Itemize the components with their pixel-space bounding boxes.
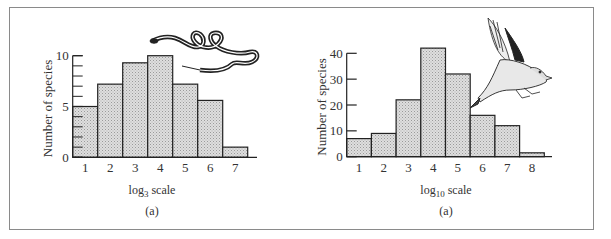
y-tick-label: 0 (336, 149, 343, 164)
x-tick-label: 3 (132, 160, 139, 175)
bar-4 (421, 48, 446, 157)
bar-4 (148, 56, 173, 158)
y-axis-title: Number of species (314, 58, 329, 155)
bar-3 (123, 63, 148, 157)
bar-1 (73, 107, 98, 158)
bird-illustration-icon (470, 18, 552, 108)
x-tick-label: 4 (157, 160, 164, 175)
bar-1 (347, 139, 372, 157)
x-tick-label: 4 (430, 160, 437, 175)
bar-7 (223, 147, 248, 157)
bar-2 (371, 133, 396, 156)
x-tick-label: 2 (107, 160, 114, 175)
x-tick-label: 3 (405, 160, 412, 175)
x-axis-title: log10 scale (420, 183, 471, 199)
x-tick-label: 2 (381, 160, 388, 175)
bar-6 (470, 115, 495, 156)
x-tick-label: 1 (82, 160, 89, 175)
y-tick-label: 0 (62, 150, 69, 165)
x-tick-label: 7 (232, 160, 239, 175)
bar-6 (198, 100, 223, 157)
y-tick-label: 20 (330, 98, 343, 113)
bar-5 (173, 84, 198, 157)
x-tick-label: 5 (455, 160, 462, 175)
y-tick-label: 10 (56, 48, 69, 63)
figure-canvas: 12345670510Number of specieslog3 scale(a… (0, 0, 611, 239)
y-tick-label: 5 (62, 99, 69, 114)
bar-7 (495, 126, 520, 157)
x-axis-title: log3 scale (129, 183, 176, 199)
y-axis-title: Number of species (40, 60, 55, 157)
panel-caption: (a) (439, 204, 452, 218)
y-tick-label: 10 (330, 123, 343, 138)
left-histogram: 12345670510Number of specieslog3 scale(a… (40, 48, 257, 218)
x-tick-label: 6 (207, 160, 214, 175)
y-tick-label: 30 (330, 72, 343, 87)
x-tick-label: 5 (182, 160, 189, 175)
bar-3 (396, 100, 421, 157)
x-tick-label: 8 (529, 160, 536, 175)
bar-5 (446, 74, 471, 157)
y-tick-label: 40 (330, 46, 343, 61)
x-tick-label: 6 (479, 160, 486, 175)
x-tick-label: 7 (504, 160, 511, 175)
x-tick-label: 1 (356, 160, 363, 175)
panel-caption: (a) (145, 204, 158, 218)
bar-2 (98, 84, 123, 157)
